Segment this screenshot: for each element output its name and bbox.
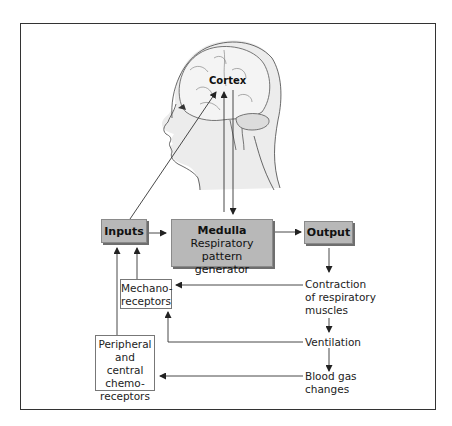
diagram-artwork bbox=[0, 0, 452, 426]
chemo-line-3: chemo- bbox=[96, 377, 154, 390]
output-box: Output bbox=[304, 221, 353, 244]
inputs-label: Inputs bbox=[104, 225, 143, 238]
head-illustration bbox=[162, 40, 281, 190]
chemo-line-1: Peripheral bbox=[96, 338, 154, 351]
bloodgas-line-2: changes bbox=[305, 383, 357, 396]
mechano-line-1: Mechano- bbox=[121, 282, 171, 295]
output-label: Output bbox=[307, 226, 350, 239]
bloodgas-line-1: Blood gas bbox=[305, 370, 357, 383]
medulla-subtitle-1: Respiratory pattern bbox=[172, 237, 272, 263]
cortex-label: Cortex bbox=[209, 75, 246, 86]
chemoreceptors-box: Peripheral and central chemo- receptors bbox=[95, 335, 155, 391]
medulla-subtitle-2: generator bbox=[172, 263, 272, 276]
arrow-ventilation-to-mechano bbox=[168, 312, 303, 342]
medulla-box: Medulla Respiratory pattern generator bbox=[171, 219, 273, 267]
chemo-line-2: and central bbox=[96, 351, 154, 377]
blood-gas-label: Blood gas changes bbox=[305, 370, 357, 396]
mechano-line-2: receptors bbox=[121, 295, 171, 308]
contraction-label: Contraction of respiratory muscles bbox=[305, 278, 376, 317]
ventilation-label: Ventilation bbox=[305, 336, 361, 349]
cerebellum-icon bbox=[236, 114, 269, 131]
mechanoreceptors-box: Mechano- receptors bbox=[120, 279, 172, 309]
contraction-line-2: of respiratory bbox=[305, 291, 376, 304]
chemo-line-4: receptors bbox=[96, 390, 154, 403]
medulla-title: Medulla bbox=[197, 224, 246, 237]
contraction-line-1: Contraction bbox=[305, 278, 376, 291]
inputs-box: Inputs bbox=[101, 219, 147, 243]
contraction-line-3: muscles bbox=[305, 304, 376, 317]
